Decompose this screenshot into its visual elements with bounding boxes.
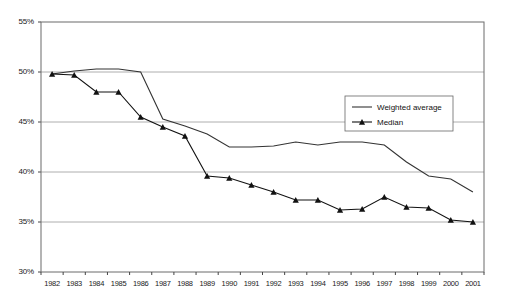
legend-label: Median — [377, 118, 403, 127]
y-axis-tick-label: 30% — [4, 267, 34, 276]
y-axis-tick-label: 40% — [4, 167, 34, 176]
y-axis-tick-label: 35% — [4, 217, 34, 226]
data-point-marker — [160, 124, 166, 130]
data-point-marker — [182, 133, 188, 139]
data-point-marker — [381, 194, 387, 200]
chart-legend: Weighted averageMedian — [345, 96, 453, 131]
x-axis-tick-label: 2001 — [460, 279, 486, 288]
y-axis-tick-label: 50% — [4, 67, 34, 76]
x-axis-ticks — [41, 272, 484, 275]
series-layer — [49, 69, 476, 225]
y-axis-tick-label: 55% — [4, 17, 34, 26]
y-axis-tick-label: 45% — [4, 117, 34, 126]
chart-canvas: Weighted averageMedian — [0, 0, 507, 307]
line-chart: Weighted averageMedian 30%35%40%45%50%55… — [0, 0, 507, 307]
legend-label: Weighted average — [377, 103, 442, 112]
